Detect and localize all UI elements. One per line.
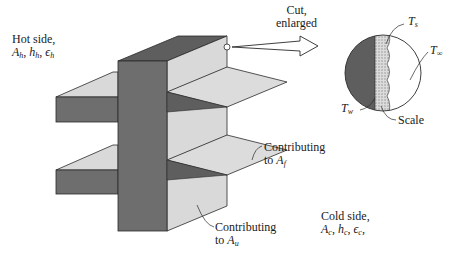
contrib-af-prefix: to [264, 153, 276, 167]
param-area-sub: h [19, 51, 23, 60]
tinf-symbol: T [430, 43, 437, 57]
contrib-au-symbol: A [227, 233, 234, 247]
hot-side-label: Hot side, Ah, hh, ϵh [12, 33, 55, 62]
tw-label: Tw [341, 102, 353, 118]
tw-symbol: T [341, 101, 348, 115]
tw-sub: w [348, 107, 353, 116]
cut-arrow-icon [232, 36, 318, 56]
contrib-af-symbol: A [276, 153, 283, 167]
scale-label: Scale [398, 114, 424, 127]
param-effectiveness-sub: c [358, 228, 362, 237]
contrib-af-sub: f [284, 159, 286, 168]
contrib-au-line2: to Au [215, 234, 276, 250]
left-fin-upper-top [56, 72, 118, 97]
left-fin-lower-top [56, 145, 118, 170]
wall-front-face [118, 61, 167, 231]
param-area-sub: c [328, 228, 332, 237]
tinf-label: T∞ [430, 44, 442, 60]
inset-scale-layer [375, 30, 390, 120]
leader-tinf [410, 52, 428, 80]
contrib-au-prefix: to [215, 233, 227, 247]
ts-label: Ts [408, 15, 418, 31]
ts-symbol: T [408, 14, 415, 28]
wall-right-face [167, 36, 227, 231]
param-htc-sub: c [344, 228, 348, 237]
contrib-af-line2: to Af [264, 154, 325, 170]
cut-label-line2: enlarged [276, 17, 317, 30]
left-fin-lower [56, 145, 118, 194]
cold-side-label: Cold side, Ac, hc, ϵc, [321, 210, 370, 239]
contributing-au-label: Contributing to Au [215, 221, 276, 250]
param-effectiveness-sub: h [50, 51, 54, 60]
left-fin-upper-front [56, 97, 118, 122]
cold-side-params: Ac, hc, ϵc, [321, 223, 370, 239]
left-fin-upper [56, 72, 118, 122]
contrib-au-sub: u [235, 239, 239, 248]
cut-marker-icon [224, 44, 230, 50]
left-fin-lower-front [56, 170, 118, 194]
tinf-sub: ∞ [437, 49, 443, 58]
enlarged-cut-inset [340, 24, 428, 120]
param-htc-sub: h [35, 51, 39, 60]
ts-sub: s [415, 20, 418, 29]
contributing-af-label: Contributing to Af [264, 141, 325, 170]
cut-enlarged-label: Cut, enlarged [276, 4, 317, 30]
hot-side-params: Ah, hh, ϵh [12, 46, 55, 62]
